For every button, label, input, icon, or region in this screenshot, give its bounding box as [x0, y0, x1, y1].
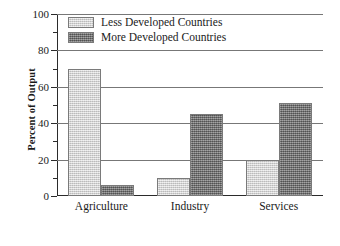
bar	[279, 103, 312, 196]
y-tick-label: 100	[33, 8, 50, 20]
y-tick-label: 80	[38, 44, 49, 56]
y-tick-minor	[53, 105, 57, 106]
y-axis-title: Percent of Output	[26, 35, 37, 185]
chart-legend: Less Developed CountriesMore Developed C…	[68, 16, 226, 43]
y-tick-label: 60	[38, 81, 49, 93]
y-tick-mark	[51, 87, 57, 88]
gridline	[57, 14, 323, 15]
bar	[246, 160, 279, 196]
x-tick-label: Services	[259, 200, 298, 212]
y-tick-minor	[53, 32, 57, 33]
legend-item: Less Developed Countries	[68, 16, 226, 28]
y-tick-mark	[51, 196, 57, 197]
y-tick-minor	[53, 141, 57, 142]
bar	[101, 185, 134, 196]
bar	[68, 69, 101, 196]
y-tick-minor	[53, 178, 57, 179]
y-tick-label: 20	[38, 154, 49, 166]
y-tick-label: 40	[38, 117, 49, 129]
y-tick-mark	[51, 123, 57, 124]
y-tick-mark	[51, 160, 57, 161]
light-gray-swatch	[68, 17, 94, 28]
y-tick-minor	[53, 69, 57, 70]
legend-label: Less Developed Countries	[101, 16, 222, 28]
legend-label: More Developed Countries	[101, 31, 226, 43]
chart-figure: Percent of Output 020406080100 Agricultu…	[0, 0, 340, 246]
bar	[190, 114, 223, 196]
x-tick-label: Agriculture	[75, 200, 128, 212]
x-tick-label: Industry	[171, 200, 209, 212]
bar	[157, 178, 190, 196]
dark-gray-swatch	[68, 32, 94, 43]
gridline	[57, 50, 323, 51]
y-axis-line	[57, 14, 58, 196]
y-tick-label: 0	[44, 190, 50, 202]
legend-item: More Developed Countries	[68, 31, 226, 43]
y-tick-mark	[51, 14, 57, 15]
y-tick-mark	[51, 50, 57, 51]
